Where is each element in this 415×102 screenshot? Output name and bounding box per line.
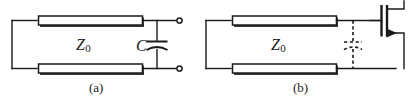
panel-a-capacitor-label: C bbox=[136, 38, 147, 54]
panel-a-group bbox=[12, 16, 182, 75]
panel-a-tline-bottom bbox=[39, 64, 145, 75]
fet-transistor bbox=[370, 1, 404, 69]
circuit-figure: Z0 C (a) Z0 (b) bbox=[0, 0, 415, 102]
panel-a-tline-top bbox=[39, 16, 145, 27]
output-terminal-bottom[interactable] bbox=[177, 66, 182, 71]
panel-b-z0-label: Z0 bbox=[271, 37, 286, 54]
output-terminal-top[interactable] bbox=[177, 18, 182, 23]
circuit-schematic-svg bbox=[0, 0, 415, 102]
fet-source-arrow-icon bbox=[387, 29, 398, 38]
panel-a-z0-label: Z0 bbox=[76, 37, 91, 54]
fet-source-lead bbox=[395, 33, 404, 69]
panel-b-tline-bottom bbox=[233, 64, 339, 75]
panel-b-tline-top bbox=[233, 16, 339, 27]
fet-drain-lead bbox=[387, 1, 404, 9]
panel-a-caption: (a) bbox=[89, 81, 103, 94]
panel-b-group bbox=[206, 1, 404, 75]
panel-b-caption: (b) bbox=[293, 81, 308, 94]
